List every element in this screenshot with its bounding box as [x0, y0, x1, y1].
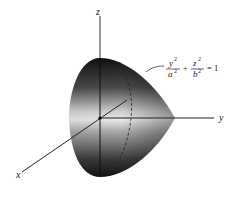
ellipse-equation: y 2 a 2 + z 2 b 2 = 1 [166, 56, 218, 79]
paraboloid-diagram: z y x y 2 a 2 + z 2 b 2 = 1 [0, 0, 244, 200]
eq-a-denominator: a [168, 69, 173, 79]
eq-equals-one: = 1 [207, 63, 218, 73]
eq-b-exponent: 2 [198, 68, 201, 74]
eq-a-exponent: 2 [174, 68, 177, 74]
origin-point [98, 116, 101, 119]
x-axis-label: x [15, 169, 21, 180]
eq-y-numerator: y [168, 58, 173, 68]
eq-z-exponent: 2 [198, 56, 201, 62]
eq-y-exponent: 2 [174, 56, 177, 62]
z-axis-label: z [95, 6, 100, 17]
eq-z-numerator: z [192, 58, 197, 68]
y-axis-label: y [218, 112, 224, 123]
eq-plus: + [183, 64, 188, 73]
equation-leader [146, 66, 164, 72]
